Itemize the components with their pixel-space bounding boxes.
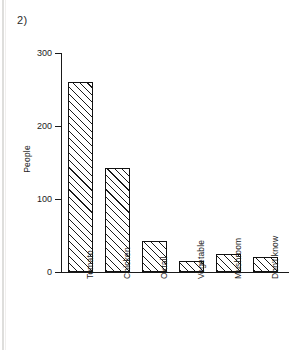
- x-axis-label-vegetable: Vegetable: [196, 240, 206, 279]
- category-labels-layer: TomatoChickenOxtailVegetableMushroomDon'…: [0, 0, 300, 350]
- x-axis-label-chicken: Chicken: [122, 247, 132, 279]
- x-axis-label-tomato: Tomato: [85, 250, 95, 279]
- x-axis-label-don-t-know: Don't know: [270, 236, 280, 279]
- x-axis-label-mushroom: Mushroom: [233, 238, 243, 279]
- chart-page: 2) People 0 100 200 300 TomatoChickenOxt…: [0, 0, 300, 350]
- plot-area: People 0 100 200 300 TomatoChickenOxtail…: [0, 0, 300, 350]
- x-axis-label-oxtail: Oxtail: [159, 256, 169, 279]
